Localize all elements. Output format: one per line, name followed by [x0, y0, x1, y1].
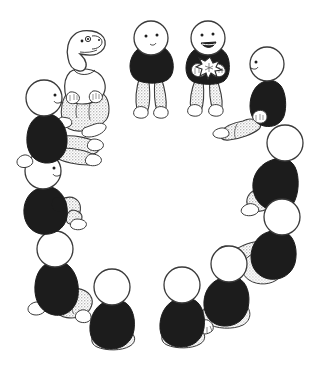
bc-head	[164, 267, 200, 303]
illustration-canvas: Children sitting in a circle Black and w…	[0, 0, 329, 369]
lu-head	[26, 80, 62, 116]
lu-foot-bottom	[85, 154, 101, 166]
sm-head	[191, 21, 225, 55]
ru-eye	[255, 61, 258, 64]
dino-nostril	[98, 39, 100, 41]
tc-eye-left	[145, 35, 148, 38]
sm-eye-right	[212, 33, 215, 36]
ru-head	[250, 47, 284, 81]
dino-hand-left	[66, 92, 79, 104]
tc-eye-right	[156, 34, 159, 37]
tc-head	[134, 21, 168, 55]
tc-foot-left	[134, 107, 149, 119]
figure-bottom-left	[90, 269, 135, 350]
lu-eye	[54, 94, 57, 97]
ll-foot	[75, 310, 91, 323]
figure-bottom-centre	[160, 267, 205, 348]
tc-foot-right	[154, 107, 169, 119]
lm-eye	[53, 167, 56, 170]
bl-head	[94, 269, 130, 305]
lu-torso	[27, 114, 67, 163]
sm-foot-left	[188, 105, 203, 117]
dino-eye-near	[81, 40, 84, 43]
sm-foot-right	[209, 105, 224, 117]
ll-head	[37, 231, 73, 267]
lu-hand	[17, 155, 33, 168]
sm-eye-left	[201, 34, 204, 37]
br-head	[211, 246, 247, 282]
rl-head	[264, 199, 300, 235]
rm-head	[267, 125, 303, 161]
lm-foot	[70, 219, 86, 230]
ll-back	[35, 261, 79, 316]
seated-circle-illustration	[0, 0, 329, 369]
lu-foot-top	[87, 139, 103, 151]
